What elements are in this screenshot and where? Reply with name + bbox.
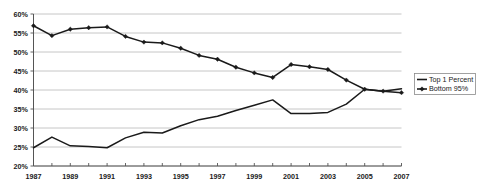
chart-legend: Top 1 PercentBottom 95% [415,74,476,95]
y-tick-label: 50% [14,48,29,57]
legend-label: Bottom 95% [429,84,469,93]
data-point-marker [160,41,164,45]
y-tick-labels: 20%25%30%35%40%45%50%55%60% [14,10,29,171]
data-point-marker [142,40,146,44]
x-tick-label: 1989 [62,172,78,181]
y-tick-label: 35% [14,105,29,114]
data-point-marker [399,90,403,94]
y-tick-label: 20% [14,162,29,171]
gridlines-group [34,14,402,166]
x-tick-label: 1993 [136,172,152,181]
y-tick-label: 45% [14,67,29,76]
data-point-marker [234,65,238,69]
x-tick-label: 2001 [283,172,299,181]
y-tick-label: 30% [14,124,29,133]
x-tick-labels: 1987198919911993199519971999200120032005… [26,172,410,181]
series-bottom-95 [31,24,403,95]
x-tick-label: 1997 [210,172,226,181]
y-axis [31,14,34,166]
x-tick-label: 1991 [99,172,115,181]
x-tick-label: 1999 [246,172,262,181]
series-line [34,89,402,148]
x-tick-label: 2003 [320,172,336,181]
y-tick-label: 55% [14,29,29,38]
data-point-marker [307,65,311,69]
chart-container: 20%25%30%35%40%45%50%55%60% 198719891991… [0,0,479,188]
legend-label: Top 1 Percent [429,75,473,84]
y-tick-label: 60% [14,10,29,19]
y-tick-label: 25% [14,143,29,152]
x-tick-label: 1987 [26,172,42,181]
x-tick-label: 2005 [357,172,373,181]
data-point-marker [68,27,72,31]
data-point-marker [87,25,91,29]
x-axis [34,163,402,166]
data-point-marker [179,46,183,50]
data-point-marker [197,53,201,57]
x-tick-label: 2007 [394,172,410,181]
series-top-1-percent [34,89,402,148]
data-point-marker [215,57,219,61]
line-chart: 20%25%30%35%40%45%50%55%60% 198719891991… [0,0,479,188]
y-tick-label: 40% [14,86,29,95]
series-group [31,24,403,148]
x-tick-label: 1995 [173,172,189,181]
